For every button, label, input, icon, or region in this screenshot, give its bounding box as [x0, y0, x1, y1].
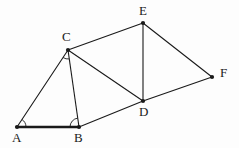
segment-df	[143, 77, 212, 101]
angle-B-arc	[70, 118, 78, 127]
segment-ce	[68, 23, 143, 50]
vertex-label-f: F	[220, 66, 227, 79]
vertex-label-a: A	[12, 131, 21, 144]
vertex-dot-f	[210, 75, 214, 79]
angle-C-arc	[63, 58, 69, 59]
vertex-label-b: B	[74, 131, 83, 144]
segments-group	[17, 23, 212, 127]
vertex-label-c: C	[62, 30, 71, 43]
vertex-label-d: D	[139, 105, 148, 118]
segment-ac	[17, 50, 68, 127]
vertex-dot-c	[66, 48, 70, 52]
vertex-dot-d	[141, 99, 145, 103]
vertex-label-e: E	[139, 4, 147, 17]
segment-cd	[68, 50, 143, 101]
geometry-figure: ABCDEF	[0, 0, 239, 148]
segment-ef	[143, 23, 212, 77]
vertex-dot-a	[15, 125, 19, 129]
vertex-dot-e	[141, 21, 145, 25]
segment-bd	[79, 101, 143, 127]
angle-marks-group	[22, 58, 78, 128]
vertex-dot-b	[77, 125, 81, 129]
geometry-canvas	[0, 0, 239, 148]
segment-bc	[68, 50, 79, 127]
